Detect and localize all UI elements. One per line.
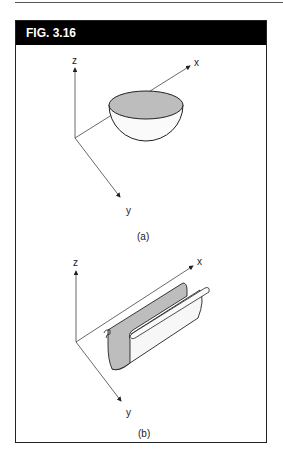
y-label-a: y xyxy=(126,205,131,216)
y-label-b: y xyxy=(126,407,131,418)
caption-b: (b) xyxy=(138,428,150,439)
y-axis-a xyxy=(75,138,120,197)
z-label-b: z xyxy=(73,257,78,268)
bowl-top xyxy=(109,91,183,119)
panel-b: z x y (b) xyxy=(73,256,209,439)
z-label-a: z xyxy=(72,55,77,66)
panel-a: z x y (a) xyxy=(72,55,199,242)
x-label-a: x xyxy=(194,57,199,68)
caption-a: (a) xyxy=(137,231,149,242)
figure-diagram: z x y (a) z x y (b) xyxy=(0,0,283,463)
x-label-b: x xyxy=(197,256,202,267)
